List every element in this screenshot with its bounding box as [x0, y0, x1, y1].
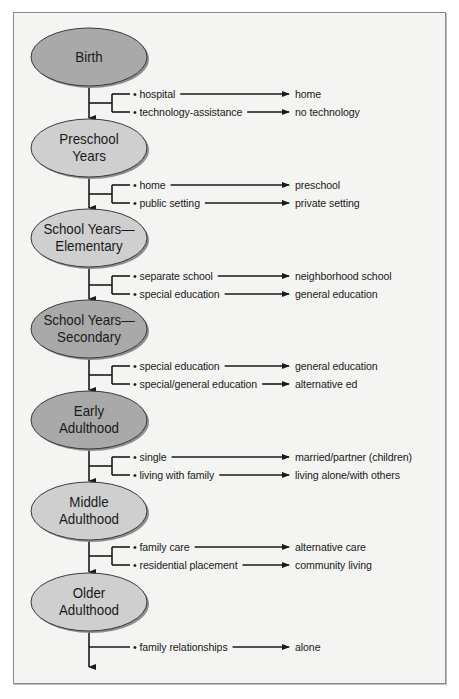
transition-from: • single	[133, 450, 167, 464]
stage-label-line: Adulthood	[36, 420, 143, 437]
transition-to: alternative care	[295, 540, 366, 554]
stage-label-line: Early	[36, 403, 143, 420]
stage-label: School Years—Elementary	[36, 221, 143, 255]
stage-label-line: Years	[36, 148, 143, 165]
transition-to: community living	[295, 558, 372, 572]
transition-to: living alone/with others	[295, 468, 400, 482]
stage-label: EarlyAdulthood	[36, 403, 143, 437]
transition-from: • living with family	[133, 468, 214, 482]
stage-label-line: Elementary	[36, 238, 143, 255]
stage-label-line: Older	[36, 585, 143, 602]
transition-from: • family relationships	[133, 640, 228, 654]
transition-to: general education	[295, 359, 378, 373]
transition-to: alone	[295, 640, 320, 654]
transition-to: private setting	[295, 196, 360, 210]
transition-from: • special/general education	[133, 377, 257, 391]
transition-from: • special education	[133, 359, 220, 373]
transition-from: • technology-assistance	[133, 105, 242, 119]
transition-from: • separate school	[133, 269, 213, 283]
transition-to: no technology	[295, 105, 360, 119]
stage-label-line: School Years—	[36, 221, 143, 238]
stage-label-line: Adulthood	[36, 511, 143, 528]
transition-from: • residential placement	[133, 558, 238, 572]
transition-to: alternative ed	[295, 377, 357, 391]
transition-to: married/partner (children)	[295, 450, 412, 464]
stage-label-line: Adulthood	[36, 602, 143, 619]
stage-label-line: Middle	[36, 494, 143, 511]
transition-to: neighborhood school	[295, 269, 391, 283]
transition-from: • home	[133, 178, 166, 192]
stage-label: OlderAdulthood	[36, 585, 143, 619]
stage-label: MiddleAdulthood	[36, 494, 143, 528]
transition-to: preschool	[295, 178, 340, 192]
transition-from: • public setting	[133, 196, 200, 210]
stage-label: PreschoolYears	[36, 131, 143, 165]
stage-label-line: Birth	[36, 49, 143, 66]
transition-from: • hospital	[133, 87, 175, 101]
stage-label: Birth	[36, 49, 143, 66]
transition-from: • special education	[133, 287, 220, 301]
stage-label-line: Secondary	[36, 329, 143, 346]
transition-from: • family care	[133, 540, 190, 554]
stage-label-line: Preschool	[36, 131, 143, 148]
transition-to: home	[295, 87, 321, 101]
stage-label-line: School Years—	[36, 312, 143, 329]
stage-label: School Years—Secondary	[36, 312, 143, 346]
transition-to: general education	[295, 287, 378, 301]
